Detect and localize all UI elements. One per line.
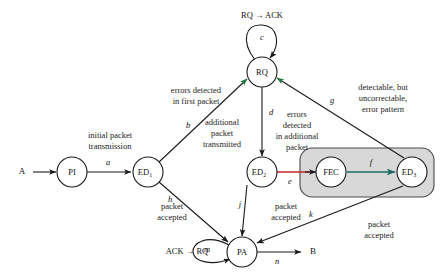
annotation-line: accepted xyxy=(364,230,394,240)
annotation-line: in additional xyxy=(276,131,319,141)
annotation-line: detectable, but xyxy=(358,82,408,92)
annotation-line: packet xyxy=(275,201,298,211)
annotation-additional-packet-transmitted: additional packet transmitted xyxy=(203,117,242,149)
edge-a: a xyxy=(87,157,131,172)
node-pi: PI xyxy=(57,157,87,187)
annotation-line: transmission xyxy=(89,141,133,151)
node-ed2: ED2 xyxy=(247,157,277,187)
annotation-initial-packet: initial packet transmission xyxy=(88,130,133,151)
annotation-line: packet xyxy=(368,219,391,229)
edge-label-e: e xyxy=(288,176,292,186)
edge-j: j xyxy=(238,185,247,236)
edge-label-c: c xyxy=(260,32,264,42)
node-label-a: A xyxy=(19,166,26,176)
annotation-packet-accepted-middle: packet accepted xyxy=(271,201,301,222)
annotation-errors-first-packet: errors detected in first packet xyxy=(171,85,222,106)
node-label-b: B xyxy=(310,246,316,256)
annotation-line: transmitted xyxy=(203,139,242,149)
annotation-detectable-uncorrectable: detectable, but uncorrectable, error pat… xyxy=(358,82,408,114)
edge-label-g: g xyxy=(330,95,334,105)
node-ed3: ED3 xyxy=(397,157,427,187)
annotation-packet-accepted-left: packet accepted xyxy=(157,201,187,222)
annotation-line: error pattern xyxy=(362,104,405,114)
annotation-ack-rq: ACK → RQ xyxy=(166,246,209,256)
node-ed1: ED1 xyxy=(133,157,163,187)
node-label-pa: PA xyxy=(237,247,248,257)
annotation-line: RQ → ACK xyxy=(241,10,284,20)
annotation-line: uncorrectable, xyxy=(359,93,407,103)
edge-label-n: n xyxy=(275,256,279,266)
annotation-line: packet xyxy=(286,142,309,152)
state-diagram: a b c d e f g xyxy=(0,0,446,276)
edge-n: n xyxy=(257,252,301,266)
node-label-pi: PI xyxy=(68,167,76,177)
annotation-line: detected xyxy=(283,120,312,130)
node-label-rq: RQ xyxy=(256,67,268,77)
annotation-line: ACK → RQ xyxy=(166,246,209,256)
node-a: A xyxy=(19,166,26,176)
edge-label-a: a xyxy=(106,157,110,167)
edge-c: c xyxy=(246,25,276,60)
edge-d: d xyxy=(262,87,274,156)
node-fec: FEC xyxy=(316,157,346,187)
edge-label-b: b xyxy=(186,120,190,130)
annotation-line: accepted xyxy=(271,212,301,222)
annotation-line: additional xyxy=(205,117,240,127)
annotation-rq-ack: RQ → ACK xyxy=(241,10,284,20)
node-b: B xyxy=(310,246,316,256)
edge-label-j: j xyxy=(238,199,242,209)
annotation-line: initial packet xyxy=(88,130,133,140)
edge-label-k: k xyxy=(309,209,313,219)
annotation-line: errors detected xyxy=(171,85,222,95)
edge-label-d: d xyxy=(269,107,274,117)
node-pa: PA xyxy=(227,237,257,267)
annotation-packet-accepted-right: packet accepted xyxy=(364,219,394,240)
annotation-errors-additional-packet: errors detected in additional packet xyxy=(276,109,319,152)
annotation-line: packet xyxy=(211,128,234,138)
annotation-line: in first packet xyxy=(173,96,220,106)
diagram-canvas: a b c d e f g xyxy=(0,0,446,276)
annotation-line: packet xyxy=(161,201,184,211)
node-rq: RQ xyxy=(247,57,277,87)
annotation-line: errors xyxy=(287,109,307,119)
node-label-fec: FEC xyxy=(323,167,339,177)
annotation-line: accepted xyxy=(157,212,187,222)
